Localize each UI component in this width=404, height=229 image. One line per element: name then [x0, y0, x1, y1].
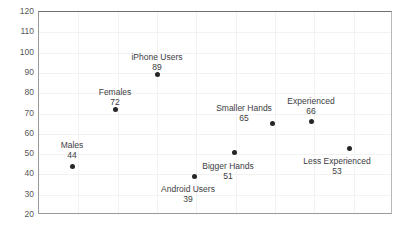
data-point-label: iPhone Users89: [131, 52, 182, 73]
data-point-label: Experienced66: [287, 96, 334, 117]
y-axis-tick-label: 60: [4, 129, 34, 138]
gridline-vertical: [78, 12, 79, 213]
y-axis-tick-label: 120: [4, 7, 34, 16]
gridline-horizontal: [39, 73, 391, 74]
data-point-label-value: 44: [61, 150, 84, 160]
data-point-label-value: 72: [99, 97, 132, 107]
plot-area: Males44Females72iPhone Users89Android Us…: [38, 11, 392, 214]
data-point-label-value: 51: [202, 171, 254, 181]
data-point-label: Bigger Hands51: [202, 161, 254, 182]
data-point-label-value: 66: [287, 106, 334, 116]
data-point-label-value: 39: [161, 194, 215, 204]
data-point-label-value: 53: [303, 166, 371, 176]
data-point-label: Smaller Hands65: [216, 103, 272, 124]
y-axis-tick-label: 90: [4, 68, 34, 77]
data-point-label: Females72: [99, 87, 132, 108]
y-axis-tick-label: 80: [4, 88, 34, 97]
data-point-label-name: Smaller Hands: [216, 103, 272, 113]
gridline-horizontal: [39, 93, 391, 94]
y-axis-tick-label: 20: [4, 210, 34, 219]
y-axis-tick-label: 40: [4, 169, 34, 178]
gridline-horizontal: [39, 114, 391, 115]
data-point-label-name: Males: [61, 140, 84, 150]
gridline-horizontal: [39, 53, 391, 54]
gridline-vertical: [196, 12, 197, 213]
gridline-horizontal: [39, 195, 391, 196]
y-axis-tick-label: 50: [4, 149, 34, 158]
data-point: [155, 72, 160, 77]
data-point-label-name: Bigger Hands: [202, 161, 254, 171]
data-point: [192, 174, 197, 179]
data-point: [309, 119, 314, 124]
data-point-label-value: 89: [131, 62, 182, 72]
data-point-label-name: Android Users: [161, 184, 215, 194]
data-point-label-name: Experienced: [287, 96, 334, 106]
data-point: [347, 146, 352, 151]
gridline-vertical: [157, 12, 158, 213]
gridline-vertical: [354, 12, 355, 213]
data-point-label-name: Less Experienced: [303, 156, 371, 166]
y-axis-tick-label: 30: [4, 189, 34, 198]
data-point-label-name: Females: [99, 87, 132, 97]
scatter-chart: 1201101009080706050403020 Males44Females…: [0, 0, 404, 229]
gridline-vertical: [118, 12, 119, 213]
y-axis-tick-label: 110: [4, 27, 34, 36]
y-axis: 1201101009080706050403020: [0, 0, 34, 229]
data-point-label-value: 65: [216, 113, 272, 123]
data-point-label-name: iPhone Users: [131, 52, 182, 62]
data-point-label: Males44: [61, 140, 84, 161]
data-point: [70, 164, 75, 169]
y-axis-tick-label: 100: [4, 47, 34, 56]
gridline-horizontal: [39, 134, 391, 135]
gridline-vertical: [275, 12, 276, 213]
data-point-label: Less Experienced53: [303, 156, 371, 177]
data-point: [232, 150, 237, 155]
data-point-label: Android Users39: [161, 184, 215, 205]
gridline-horizontal: [39, 154, 391, 155]
y-axis-tick-label: 70: [4, 108, 34, 117]
gridline-horizontal: [39, 32, 391, 33]
